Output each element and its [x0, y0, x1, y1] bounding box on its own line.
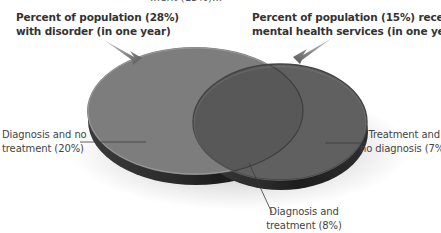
region-label-diagnosis-and-treatment: Diagnosis and treatment (8%): [262, 205, 346, 233]
arrow-services-icon: [293, 38, 332, 64]
set-title-services-line-1: Percent of population (15%) receiving: [252, 10, 432, 24]
region-label-diagnosis-no-treatment-line-1: Diagnosis and no: [2, 128, 82, 142]
region-label-treatment-no-diagnosis-line-1: Treatment and: [360, 128, 440, 142]
cut-off-heading: ...ent (15%)...: [150, 0, 222, 3]
set-title-services-line-2: mental health services (in one year): [252, 24, 432, 38]
region-label-treatment-no-diagnosis-line-2: no diagnosis (7%): [360, 142, 440, 156]
set-title-disorder: Percent of population (28%) with disorde…: [16, 10, 148, 38]
region-label-diagnosis-no-treatment-line-2: treatment (20%): [2, 142, 82, 156]
region-label-diagnosis-and-treatment-line-2: treatment (8%): [262, 219, 346, 233]
venn-diagram: ...ent (15%)... Percent of population (2…: [0, 0, 441, 233]
region-label-treatment-no-diagnosis: Treatment and no diagnosis (7%): [360, 128, 440, 156]
region-label-diagnosis-no-treatment: Diagnosis and no treatment (20%): [2, 128, 82, 156]
set-title-disorder-line-2: with disorder (in one year): [16, 24, 148, 38]
set-title-services: Percent of population (15%) receiving me…: [252, 10, 432, 38]
arrow-disorder-icon: [104, 40, 142, 65]
region-label-diagnosis-and-treatment-line-1: Diagnosis and: [262, 205, 346, 219]
set-title-disorder-line-1: Percent of population (28%): [16, 10, 148, 24]
